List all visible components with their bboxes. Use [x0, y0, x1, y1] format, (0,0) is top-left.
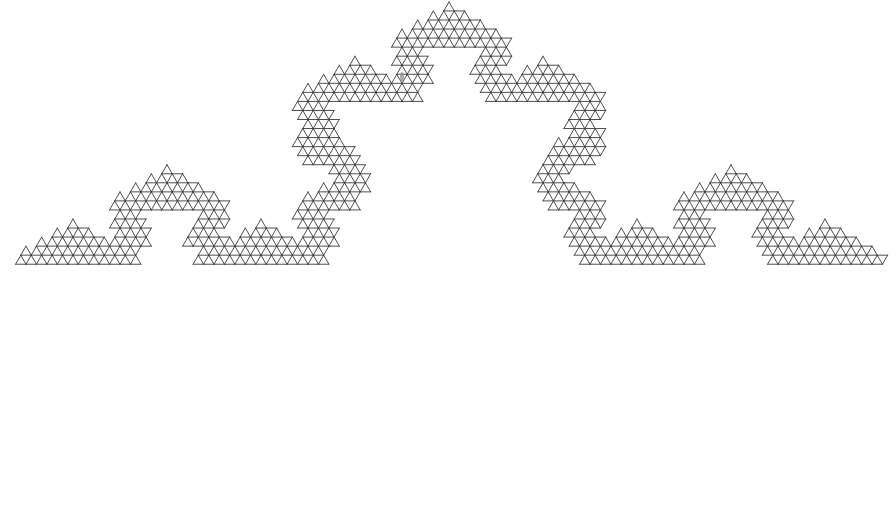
fractal-figure-canvas	[0, 0, 896, 509]
triangular-lattice-group	[16, 2, 888, 264]
dust-speck-artifact	[400, 72, 404, 81]
lattice-edges-path	[16, 2, 888, 264]
koch-lattice-band-svg	[0, 0, 896, 509]
